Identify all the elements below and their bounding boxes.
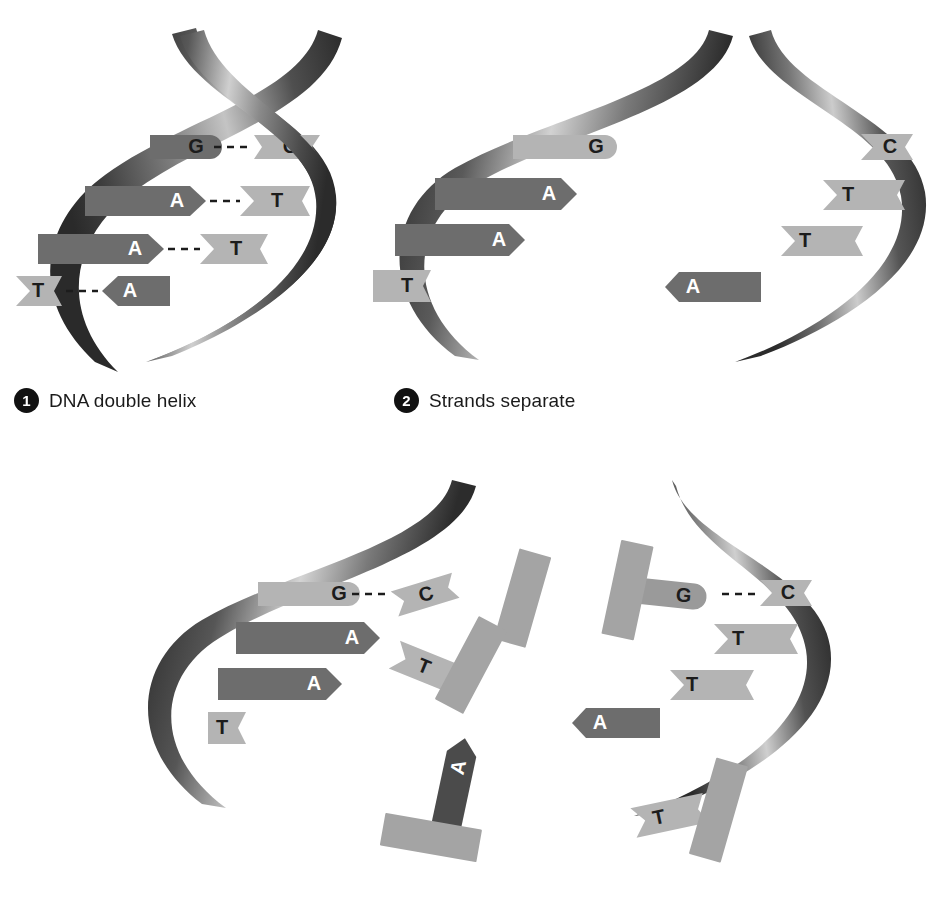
base-label-free-G-p3: G xyxy=(675,583,693,607)
base-A-panel2 xyxy=(665,272,761,302)
base-A2-panel3-left xyxy=(218,668,342,700)
base-T2-panel3-right xyxy=(670,670,754,700)
base-A-panel1-r3 xyxy=(38,234,164,264)
base-label-G-p2: G xyxy=(588,135,604,157)
panel-3-replication: G A A T C T xyxy=(0,460,933,890)
base-pair-row-4: T A xyxy=(16,276,170,306)
panel-2-badge: 2 xyxy=(394,388,419,413)
base-pair-row-2: A T xyxy=(85,186,310,216)
base-label-A1-p2: A xyxy=(542,182,556,204)
panel-1-caption: 1 DNA double helix xyxy=(14,388,196,413)
panel-2-strands-separate: G A A T C T T A xyxy=(393,0,933,390)
base-label-T-r3: T xyxy=(230,237,242,259)
left-free-nucleotides: C T A xyxy=(380,548,552,862)
base-A-panel1-r2 xyxy=(85,186,206,216)
base-label-A-r2: A xyxy=(170,189,184,211)
base-label-C-p3r: C xyxy=(781,581,795,603)
base-pair-row-3: A T xyxy=(38,234,268,264)
right-free-nucleotides: G T xyxy=(601,540,748,863)
free-base-A-panel3 xyxy=(432,735,480,829)
panel-1-badge: 1 xyxy=(14,388,39,413)
base-label-T-r4: T xyxy=(32,279,44,301)
panel-1-caption-text: DNA double helix xyxy=(49,390,196,412)
base-label-A-p3r: A xyxy=(593,711,607,733)
dna-replication-figure: G C A T A T xyxy=(0,0,933,898)
base-label-G-p3l: G xyxy=(331,582,347,604)
base-G-panel1 xyxy=(150,135,222,159)
base-T2-panel2 xyxy=(781,226,863,256)
panel-1-double-helix: G C A T A T xyxy=(0,0,360,390)
base-label-A1-p3l: A xyxy=(345,626,359,648)
base-label-G-1: G xyxy=(188,135,204,157)
panel-2-caption: 2 Strands separate xyxy=(394,388,575,413)
base-label-A-p2: A xyxy=(686,275,700,297)
base-label-A2-p2: A xyxy=(492,228,506,250)
base-label-T-p3l: T xyxy=(216,716,228,738)
base-T1-panel3-right xyxy=(714,624,798,654)
base-label-A2-p3l: A xyxy=(307,672,321,694)
free-backbone-bar-A xyxy=(380,813,482,863)
base-label-T-r2: T xyxy=(271,189,283,211)
base-label-T2-p2: T xyxy=(799,229,811,251)
base-label-A-r4: A xyxy=(123,279,137,301)
base-label-T-p2: T xyxy=(401,274,413,296)
base-label-T1-p3r: T xyxy=(732,627,744,649)
base-label-T2-p3r: T xyxy=(686,673,698,695)
base-A-panel3-right xyxy=(572,708,660,738)
base-label-T1-p2: T xyxy=(842,183,854,205)
panel-2-caption-text: Strands separate xyxy=(429,390,575,412)
base-T1-panel2 xyxy=(823,180,905,210)
base-label-A-r3: A xyxy=(128,237,142,259)
base-label-C-p2: C xyxy=(883,135,897,157)
